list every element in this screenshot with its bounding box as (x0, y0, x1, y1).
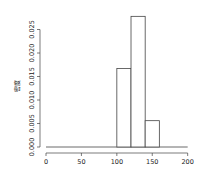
x-tick-label: 50 (77, 158, 85, 166)
histogram-bar (145, 121, 159, 147)
x-tick-label: 100 (111, 158, 123, 166)
y-tick-label: 0.025 (28, 20, 36, 39)
x-tick-label: 0 (44, 158, 48, 166)
y-tick-label: 0.020 (28, 44, 36, 63)
histogram-chart: 0501001502000.0000.0050.0100.0150.0200.0… (0, 0, 206, 178)
y-tick-label: 0.010 (28, 91, 36, 110)
chart-canvas: 0501001502000.0000.0050.0100.0150.0200.0… (0, 0, 206, 178)
y-tick-label: 0.000 (28, 138, 36, 157)
histogram-bar (117, 69, 131, 147)
y-tick-label: 0.015 (28, 67, 36, 86)
x-tick-label: 200 (181, 158, 193, 166)
y-axis-label: 密度 (13, 80, 21, 92)
x-tick-label: 150 (146, 158, 158, 166)
histogram-bar (131, 16, 145, 147)
y-tick-label: 0.005 (28, 114, 36, 133)
